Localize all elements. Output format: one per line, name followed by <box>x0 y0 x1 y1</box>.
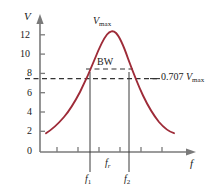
y-axis-arrowhead <box>36 14 43 24</box>
bandwidth-label: BW <box>97 57 113 67</box>
y-tick-label-8: 8 <box>27 68 32 78</box>
x-axis-label: f <box>190 158 193 169</box>
f1-sub: 1 <box>88 178 92 186</box>
half-power-label: 0.707 Vmax <box>161 72 204 82</box>
x-axis-arrowhead <box>186 148 196 155</box>
half-power-sub: max <box>192 76 204 84</box>
y-tick-label-4: 4 <box>27 107 32 117</box>
y-tick-label-2: 2 <box>27 126 32 136</box>
y-tick-label-12: 12 <box>20 30 30 40</box>
peak-label-sub: max <box>99 20 111 28</box>
half-power-value: 0.707 <box>161 71 184 82</box>
y-tick-label-6: 6 <box>27 88 32 98</box>
y-axis-label: V <box>24 11 31 22</box>
f2-label: f2 <box>124 174 130 184</box>
resonance-curve-figure: V f 0 2 4 6 8 10 12 Vmax BW 0.707 Vmax f… <box>0 0 210 195</box>
y-tick-label-0: 0 <box>27 146 32 156</box>
y-tick-label-10: 10 <box>20 49 30 59</box>
f1-label: f1 <box>85 174 91 184</box>
f-resonance-label: fr <box>105 158 111 168</box>
resonance-curve-path <box>46 31 174 133</box>
peak-label: Vmax <box>93 16 111 26</box>
f-resonance-sub: r <box>108 162 111 170</box>
f2-sub: 2 <box>127 178 131 186</box>
